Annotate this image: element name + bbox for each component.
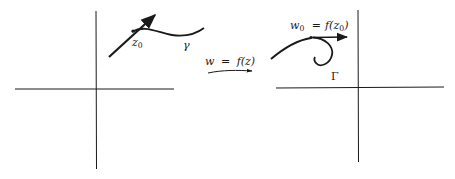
label-mapping-rhs: f(z)	[237, 55, 255, 68]
curve-gamma	[132, 28, 204, 36]
point-w0	[309, 36, 312, 39]
label-w0-base: w	[290, 19, 299, 32]
diagram-canvas: z0 γ w = f(z) w0 =f(z0) Γ	[0, 0, 455, 179]
mapping-arrow	[208, 70, 252, 73]
label-mapping-eq: =	[221, 55, 230, 68]
label-w0-subscript: 0	[299, 24, 304, 33]
label-Gamma: Γ	[331, 71, 339, 82]
label-z0-subscript: 0	[138, 41, 143, 50]
w-plane-horizontal-axis	[276, 87, 444, 88]
diagram-graphics	[0, 0, 455, 179]
label-w0-equation: w0 =f(z0)	[290, 20, 348, 33]
label-w0-rhs-suffix: )	[344, 19, 348, 32]
curve-Gamma-loop	[313, 38, 332, 66]
label-w0-rhs-prefix: f(z	[325, 19, 339, 32]
label-gamma: γ	[183, 40, 190, 51]
curve-Gamma	[271, 38, 311, 59]
z-plane-axes	[15, 11, 174, 169]
z-plane-vertical-axis	[96, 11, 97, 169]
w-plane-vertical-axis	[358, 10, 359, 162]
label-z0: z0	[132, 37, 143, 50]
label-w0-eq: =	[312, 19, 321, 32]
point-z0	[131, 29, 134, 32]
label-mapping: w = f(z)	[205, 56, 255, 67]
label-mapping-lhs: w	[205, 55, 214, 68]
